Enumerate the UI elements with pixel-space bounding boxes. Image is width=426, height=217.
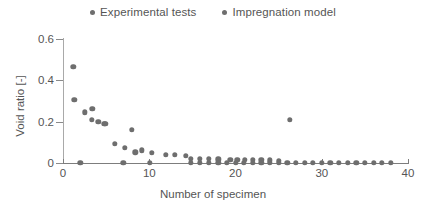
y-tick: [56, 122, 63, 123]
data-point: [133, 150, 138, 155]
data-point: [371, 160, 376, 165]
y-tick: [56, 39, 63, 40]
data-point: [388, 160, 393, 165]
data-point: [336, 160, 341, 165]
data-point: [233, 160, 238, 165]
data-point: [96, 119, 101, 124]
data-point: [71, 64, 76, 69]
data-point: [259, 160, 264, 165]
legend-item-experimental-tests: Experimental tests: [90, 6, 196, 18]
data-point: [293, 160, 298, 165]
data-point: [172, 152, 177, 157]
data-point: [197, 160, 202, 165]
data-point: [362, 160, 367, 165]
data-point: [285, 160, 290, 165]
chart-legend: Experimental tests Impregnation model: [0, 6, 426, 18]
data-point: [89, 117, 94, 122]
x-tick-label: 10: [143, 167, 156, 179]
data-point: [345, 160, 350, 165]
data-point: [163, 152, 168, 157]
data-point: [287, 117, 292, 122]
y-axis-tick-labels: 00.20.40.6: [0, 0, 54, 217]
data-point: [103, 121, 108, 126]
y-tick: [56, 80, 63, 81]
data-point: [379, 160, 384, 165]
data-point: [129, 127, 134, 132]
data-point: [147, 160, 152, 165]
data-point: [328, 160, 333, 165]
x-tick-label: 40: [402, 167, 415, 179]
data-point: [112, 141, 117, 146]
x-tick-label: 30: [315, 167, 328, 179]
data-point: [319, 160, 324, 165]
data-point: [206, 160, 211, 165]
legend-label-experimental-tests: Experimental tests: [100, 6, 196, 18]
data-point: [122, 145, 127, 150]
data-point: [224, 160, 229, 165]
data-point: [267, 160, 272, 165]
x-tick-label: 0: [60, 167, 66, 179]
data-point: [149, 150, 154, 155]
legend-marker-icon: [222, 10, 227, 15]
data-point: [71, 97, 76, 102]
x-axis-title: Number of specimen: [0, 188, 426, 200]
x-tick-label: 20: [229, 167, 242, 179]
data-point: [302, 160, 307, 165]
scatter-chart-figure: Experimental tests Impregnation model 00…: [0, 0, 426, 217]
data-point: [250, 160, 255, 165]
x-tick: [408, 159, 409, 164]
data-point: [276, 160, 281, 165]
data-point: [139, 147, 144, 152]
data-point: [216, 160, 221, 165]
data-point: [310, 160, 315, 165]
legend-label-impregnation-model: Impregnation model: [232, 6, 335, 18]
data-point: [354, 160, 359, 165]
legend-item-impregnation-model: Impregnation model: [222, 6, 335, 18]
legend-marker-icon: [90, 10, 95, 15]
data-point: [90, 106, 95, 111]
data-point: [78, 160, 83, 165]
y-axis-title: Void ratio [-]: [14, 41, 26, 171]
y-tick: [56, 163, 63, 164]
plot-area: [63, 39, 408, 163]
data-point: [82, 110, 87, 115]
data-point: [121, 160, 126, 165]
data-point: [188, 160, 193, 165]
data-point: [241, 160, 246, 165]
